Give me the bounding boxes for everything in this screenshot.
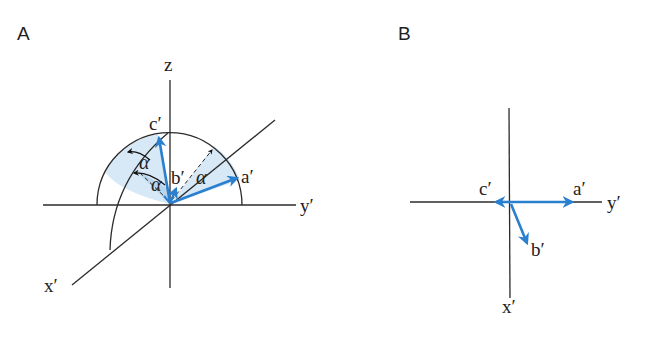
axis-label-z: z bbox=[164, 54, 172, 75]
panel-a: z y′ x′ c′ a′ b′ α α α bbox=[43, 54, 314, 296]
angle-label-alpha-2: α bbox=[151, 173, 162, 195]
vector-b-prime-b bbox=[511, 204, 527, 243]
axis-label-y-prime-b: y′ bbox=[607, 192, 621, 213]
axis-label-x-prime-b: x′ bbox=[502, 296, 516, 317]
vector-label-a-prime: a′ bbox=[241, 166, 254, 187]
angle-label-alpha-3: α bbox=[196, 166, 207, 188]
vector-label-a-prime-b: a′ bbox=[573, 178, 586, 199]
vector-label-b-prime-b: b′ bbox=[531, 239, 545, 260]
angle-label-alpha-1: α bbox=[139, 151, 150, 173]
panel-b: c′ a′ y′ b′ x′ bbox=[410, 108, 621, 317]
axis-label-y-prime: y′ bbox=[300, 195, 314, 216]
axis-label-x-prime: x′ bbox=[44, 275, 58, 296]
diagram-canvas: z y′ x′ c′ a′ b′ α α α c′ a′ y′ b′ x′ bbox=[0, 0, 656, 344]
vector-label-b-prime: b′ bbox=[171, 167, 185, 188]
vector-label-c-prime: c′ bbox=[149, 113, 162, 134]
vector-label-c-prime-b: c′ bbox=[479, 178, 492, 199]
